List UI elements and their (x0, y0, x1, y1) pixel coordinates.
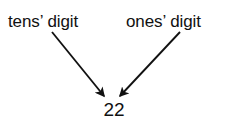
tens-arrow-icon (52, 32, 104, 96)
number-value: 22 (0, 100, 235, 119)
ones-arrow-icon (120, 32, 180, 96)
place-value-diagram: tens’ digit ones’ digit 22 (0, 0, 235, 128)
